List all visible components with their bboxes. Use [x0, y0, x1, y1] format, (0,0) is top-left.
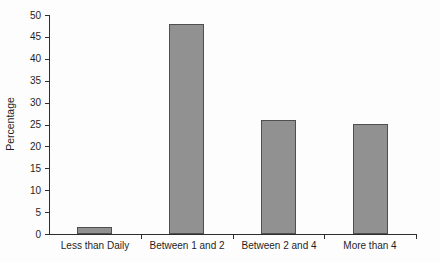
y-tick-label: 40 — [21, 54, 41, 64]
y-tick-mark — [45, 81, 49, 82]
y-tick-mark — [45, 146, 49, 147]
y-tick-label: 15 — [21, 164, 41, 174]
y-tick-mark — [45, 234, 49, 235]
x-tick-mark — [416, 235, 417, 239]
y-tick-mark — [45, 125, 49, 126]
x-category-label: Between 1 and 2 — [141, 240, 233, 252]
y-tick-label: 10 — [21, 186, 41, 196]
x-tick-mark — [233, 235, 234, 239]
y-axis-line — [49, 15, 50, 235]
bar — [169, 24, 204, 234]
bar — [261, 120, 296, 234]
x-tick-mark — [141, 235, 142, 239]
y-tick-label: 50 — [21, 11, 41, 21]
x-category-label: More than 4 — [324, 240, 416, 252]
y-tick-label: 0 — [21, 230, 41, 240]
x-category-label: Less than Daily — [49, 240, 141, 252]
y-tick-label: 20 — [21, 142, 41, 152]
y-tick-label: 45 — [21, 32, 41, 42]
y-axis-title: Percentage — [4, 97, 16, 151]
y-tick-mark — [45, 37, 49, 38]
bar-chart: Percentage 05101520253035404550Less than… — [0, 0, 440, 262]
y-tick-mark — [45, 190, 49, 191]
y-tick-mark — [45, 212, 49, 213]
y-tick-mark — [45, 103, 49, 104]
bar — [353, 124, 388, 234]
y-tick-mark — [45, 59, 49, 60]
y-tick-label: 30 — [21, 98, 41, 108]
y-tick-mark — [45, 15, 49, 16]
y-tick-label: 25 — [21, 120, 41, 130]
y-tick-mark — [45, 168, 49, 169]
y-tick-label: 5 — [21, 208, 41, 218]
bar — [77, 227, 112, 234]
x-tick-mark — [324, 235, 325, 239]
y-tick-label: 35 — [21, 76, 41, 86]
x-category-label: Between 2 and 4 — [233, 240, 325, 252]
